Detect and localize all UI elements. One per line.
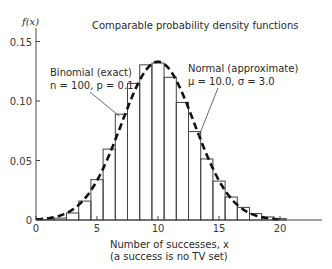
x-tick-label: 15 — [213, 223, 226, 234]
y-tick-label: 0 — [26, 215, 32, 226]
histogram-bar — [152, 63, 164, 220]
normal-curve — [36, 62, 279, 220]
histogram-bar — [164, 77, 176, 220]
x-tick-label: 5 — [94, 223, 100, 234]
binomial-annotation-arrow — [90, 92, 119, 116]
histogram-bar — [189, 132, 201, 220]
x-tick-label: 20 — [274, 223, 287, 234]
x-tick-label: 10 — [152, 223, 165, 234]
histogram-bar — [67, 213, 79, 220]
y-tick-label: 0.05 — [10, 156, 32, 167]
histogram-bar — [225, 197, 237, 220]
x-tick-label: 0 — [33, 223, 39, 234]
histogram-bar — [115, 114, 127, 220]
y-tick-label: 0.10 — [10, 96, 32, 107]
y-tick-label: 0.15 — [10, 37, 32, 48]
chart-plot: 00.050.100.1505101520 — [0, 0, 332, 269]
histogram-bar — [103, 149, 115, 220]
histogram-bar — [176, 102, 188, 220]
histogram-bar — [140, 65, 152, 220]
histogram-bar — [201, 159, 213, 220]
normal-annotation-arrow — [199, 88, 218, 137]
